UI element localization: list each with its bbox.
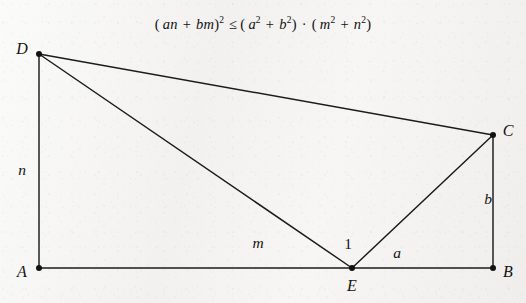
- label-m: m: [252, 235, 263, 251]
- vertex-label-c: C: [503, 123, 514, 139]
- vertex-label-e: E: [347, 278, 357, 294]
- vertices-group: [36, 51, 496, 271]
- vertex-dot-e: [349, 265, 355, 271]
- label-angle-1: 1: [344, 236, 352, 252]
- vertex-label-b: B: [503, 264, 513, 280]
- edges-group: [39, 54, 493, 268]
- edge-D-E: [39, 54, 352, 268]
- vertex-label-a: A: [17, 264, 27, 280]
- figure-page: (an+bm)2≤(a2+b2)·(m2+n2) DCABEnbma1: [0, 0, 526, 303]
- label-b: b: [484, 191, 492, 207]
- edge-D-C: [39, 54, 493, 135]
- vertex-dot-a: [36, 265, 42, 271]
- label-n: n: [18, 162, 26, 178]
- label-a: a: [393, 245, 401, 261]
- vertex-dot-d: [36, 51, 42, 57]
- vertex-dot-b: [490, 265, 496, 271]
- edge-E-C: [352, 135, 493, 268]
- vertex-dot-c: [490, 132, 496, 138]
- vertex-label-d: D: [16, 41, 28, 57]
- geometry-figure: [0, 0, 526, 303]
